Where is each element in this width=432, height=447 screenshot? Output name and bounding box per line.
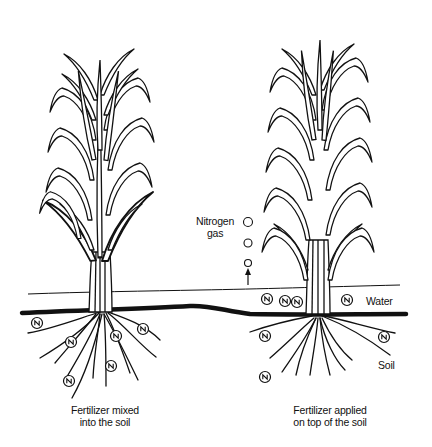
- right-caption-line1: Fertilizer applied: [270, 404, 390, 416]
- nitrogen-gas-bubbles: [244, 218, 253, 267]
- left-caption-line2: into the soil: [50, 416, 160, 428]
- nitrogen-gas-label: Nitrogen gas: [196, 215, 234, 239]
- soil-label: Soil: [378, 359, 395, 371]
- left-caption: Fertilizer mixed into the soil: [50, 404, 160, 428]
- right-n-particles-soil: [260, 331, 390, 383]
- right-rice-plant: [250, 40, 395, 375]
- upward-arrow-icon: [245, 268, 251, 285]
- soil-surface-line: [22, 306, 406, 315]
- nitrogen-gas-label-line2: gas: [196, 227, 234, 239]
- nitrogen-gas-label-line1: Nitrogen: [196, 215, 234, 227]
- left-rice-plant: [28, 49, 160, 398]
- left-caption-line1: Fertilizer mixed: [50, 404, 160, 416]
- right-caption-line2: on top of the soil: [270, 416, 390, 428]
- water-surface-line: [28, 285, 400, 294]
- water-label: Water: [366, 295, 393, 307]
- right-caption: Fertilizer applied on top of the soil: [270, 404, 390, 428]
